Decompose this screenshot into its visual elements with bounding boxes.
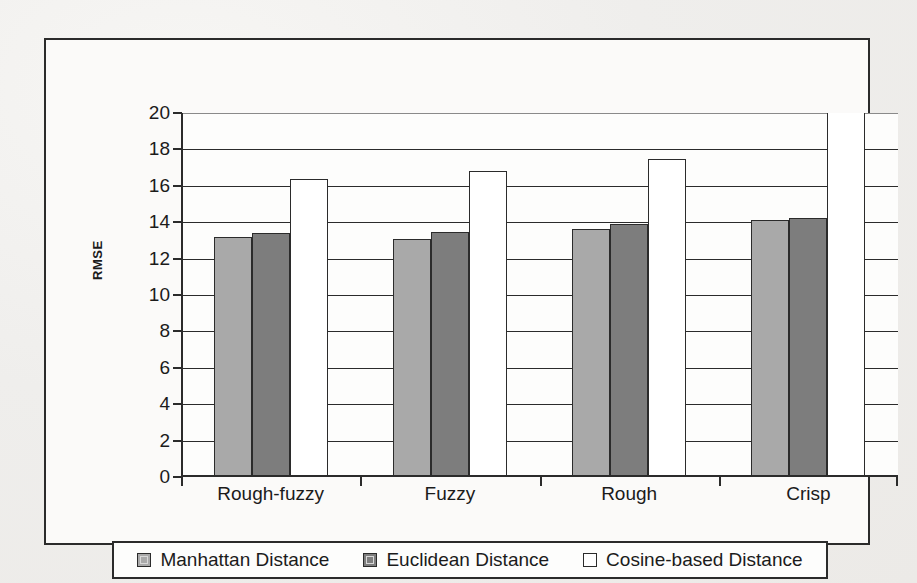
y-axis-tick-label: 8 (159, 320, 170, 342)
y-axis-tick-label: 14 (149, 211, 170, 233)
legend-item[interactable]: Manhattan Distance (137, 549, 329, 571)
bar[interactable] (252, 233, 290, 477)
y-axis-tick-labels: 02468101214161820 (124, 113, 170, 477)
bar[interactable] (290, 179, 328, 477)
y-axis-tick-label: 16 (149, 175, 170, 197)
bar-group (183, 113, 362, 477)
bar[interactable] (648, 159, 686, 477)
bar[interactable] (469, 171, 507, 477)
bar[interactable] (827, 113, 865, 477)
legend-swatch-icon (137, 553, 151, 567)
scanned-page-background: RMSE 02468101214161820 Rough-fuzzyFuzzyR… (0, 0, 917, 583)
y-axis-tick-label: 10 (149, 284, 170, 306)
y-axis-tick-label: 20 (149, 102, 170, 124)
x-axis-tick-label: Crisp (786, 483, 830, 505)
y-axis-tick-label: 2 (159, 430, 170, 452)
bar-group (542, 113, 721, 477)
chart-legend: Manhattan DistanceEuclidean DistanceCosi… (112, 541, 828, 579)
y-axis-tick-label: 4 (159, 393, 170, 415)
legend-label: Euclidean Distance (386, 549, 549, 571)
y-axis-tick-label: 6 (159, 357, 170, 379)
y-axis-tick-label: 12 (149, 248, 170, 270)
legend-label: Manhattan Distance (160, 549, 329, 571)
bar-group (721, 113, 898, 477)
legend-label: Cosine-based Distance (606, 549, 802, 571)
bar[interactable] (789, 218, 827, 477)
legend-swatch-icon (583, 553, 597, 567)
bar-group (362, 113, 541, 477)
chart-frame: RMSE 02468101214161820 Rough-fuzzyFuzzyR… (44, 38, 870, 545)
y-axis-title: RMSE (90, 240, 105, 280)
bar[interactable] (610, 224, 648, 477)
y-axis-tick-label: 18 (149, 138, 170, 160)
x-axis-tick-label: Rough-fuzzy (217, 483, 324, 505)
plot-area-wrapper (181, 113, 898, 477)
y-axis-tick-label: 0 (159, 466, 170, 488)
legend-item[interactable]: Euclidean Distance (363, 549, 549, 571)
x-axis-tick-label: Fuzzy (425, 483, 476, 505)
bar[interactable] (751, 220, 789, 477)
x-axis-tick-label: Rough (601, 483, 657, 505)
x-axis-tick-labels: Rough-fuzzyFuzzyRoughCrisp (181, 483, 898, 517)
bar[interactable] (393, 239, 431, 477)
plot-area (181, 113, 898, 477)
bar[interactable] (214, 237, 252, 477)
legend-item[interactable]: Cosine-based Distance (583, 549, 802, 571)
bar[interactable] (431, 232, 469, 477)
bar[interactable] (572, 229, 610, 477)
legend-swatch-icon (363, 553, 377, 567)
